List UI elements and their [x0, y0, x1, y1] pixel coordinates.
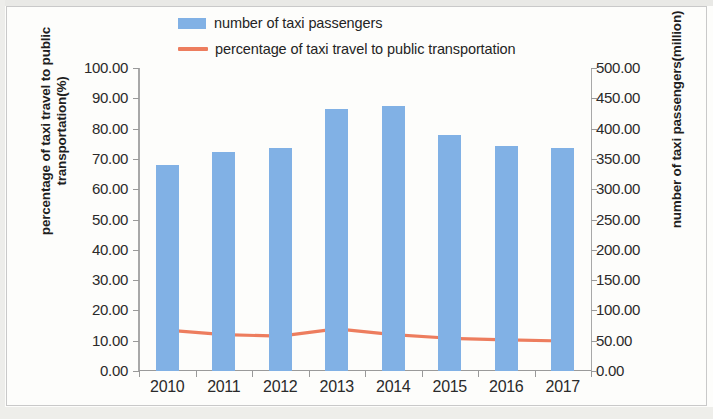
tick-mark-left-5 — [133, 220, 139, 221]
y-right-tick-5: 250.00 — [596, 212, 666, 227]
tick-mark-right-5 — [591, 220, 597, 221]
legend-entry-bars: number of taxi passengers — [178, 12, 382, 34]
x-tick-label-2014: 2014 — [363, 378, 423, 396]
y-axis-right-ticks: 500.00450.00400.00350.00300.00250.00200.… — [596, 0, 666, 419]
tick-mark-right-8 — [591, 310, 597, 311]
y-left-tick-10: 0.00 — [58, 363, 128, 378]
y-left-tick-6: 40.00 — [58, 242, 128, 257]
bar-2016 — [495, 146, 518, 371]
x-axis-ticks: 20102011201220132014201520162017 — [139, 378, 591, 404]
y-right-tick-4: 300.00 — [596, 181, 666, 196]
tick-mark-right-6 — [591, 250, 597, 251]
line-swatch-icon — [178, 47, 208, 51]
y-left-tick-5: 50.00 — [58, 212, 128, 227]
tick-mark-left-4 — [133, 189, 139, 190]
x-tick-label-2013: 2013 — [307, 378, 367, 396]
legend-label-bars: number of taxi passengers — [214, 15, 382, 31]
tick-mark-right-2 — [591, 129, 597, 130]
tick-mark-right-1 — [591, 98, 597, 99]
bar-swatch-icon — [178, 18, 206, 29]
x-tick-label-2017: 2017 — [533, 378, 593, 396]
tick-mark-right-7 — [591, 280, 597, 281]
x-tick-label-2012: 2012 — [250, 378, 310, 396]
y-right-tick-6: 200.00 — [596, 242, 666, 257]
y-axis-right-title: number of taxi passengers(million) — [669, 0, 684, 270]
y-right-tick-0: 500.00 — [596, 60, 666, 75]
bar-2011 — [212, 152, 235, 371]
legend-entry-line: percentage of taxi travel to public tran… — [178, 38, 516, 60]
legend-label-line: percentage of taxi travel to public tran… — [215, 41, 516, 57]
tick-mark-left-7 — [133, 280, 139, 281]
y-right-tick-8: 100.00 — [596, 302, 666, 317]
x-tick-label-2010: 2010 — [137, 378, 197, 396]
x-tick-mark-6 — [478, 371, 479, 377]
x-tick-mark-3 — [309, 371, 310, 377]
y-right-tick-7: 150.00 — [596, 272, 666, 287]
tick-mark-left-1 — [133, 98, 139, 99]
x-tick-mark-0 — [139, 371, 140, 377]
y-left-tick-4: 60.00 — [58, 181, 128, 196]
y-left-tick-7: 30.00 — [58, 272, 128, 287]
bar-2017 — [551, 148, 574, 371]
y-left-tick-3: 70.00 — [58, 151, 128, 166]
bar-2013 — [325, 109, 348, 371]
plot-area — [139, 68, 591, 371]
tick-mark-right-3 — [591, 159, 597, 160]
x-tick-label-2015: 2015 — [420, 378, 480, 396]
x-tick-mark-4 — [365, 371, 366, 377]
y-left-tick-2: 80.00 — [58, 121, 128, 136]
line-series-svg — [139, 68, 591, 371]
bar-2014 — [382, 106, 405, 371]
tick-mark-left-6 — [133, 250, 139, 251]
y-right-tick-10: 0.00 — [596, 363, 666, 378]
y-left-tick-8: 20.00 — [58, 302, 128, 317]
chart-figure: number of taxi passengers percentage of … — [0, 0, 713, 419]
x-tick-label-2011: 2011 — [194, 378, 254, 396]
y-axis-left-ticks: 100.0090.0080.0070.0060.0050.0040.0030.0… — [58, 0, 128, 419]
x-tick-mark-2 — [252, 371, 253, 377]
y-right-tick-2: 400.00 — [596, 121, 666, 136]
x-tick-mark-7 — [535, 371, 536, 377]
x-tick-mark-end — [591, 371, 592, 377]
bar-2010 — [156, 165, 179, 371]
y-right-tick-3: 350.00 — [596, 151, 666, 166]
tick-mark-left-8 — [133, 310, 139, 311]
x-tick-mark-1 — [196, 371, 197, 377]
x-tick-label-2016: 2016 — [476, 378, 536, 396]
y-right-tick-1: 450.00 — [596, 90, 666, 105]
y-left-tick-0: 100.00 — [58, 60, 128, 75]
x-tick-mark-5 — [422, 371, 423, 377]
tick-mark-right-4 — [591, 189, 597, 190]
tick-mark-left-3 — [133, 159, 139, 160]
bar-2012 — [269, 148, 292, 371]
y-left-tick-9: 10.00 — [58, 333, 128, 348]
tick-mark-right-0 — [591, 68, 597, 69]
tick-mark-left-9 — [133, 341, 139, 342]
tick-mark-right-9 — [591, 341, 597, 342]
tick-mark-left-0 — [133, 68, 139, 69]
y-right-tick-9: 50.00 — [596, 333, 666, 348]
bar-2015 — [438, 135, 461, 371]
y-left-tick-1: 90.00 — [58, 90, 128, 105]
tick-mark-left-2 — [133, 129, 139, 130]
